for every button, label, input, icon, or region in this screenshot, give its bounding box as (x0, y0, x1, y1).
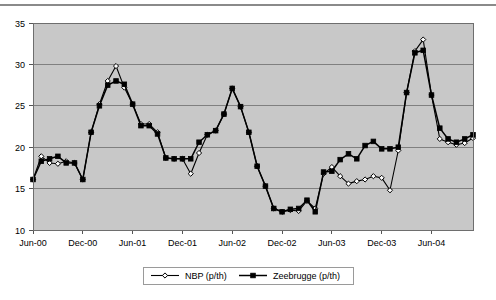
y-tick-label-10: 10 (15, 226, 25, 236)
data-point-zeebrugge-16 (164, 156, 169, 161)
data-point-zeebrugge-5 (72, 161, 77, 166)
chart-legend: NBP (p/th)Zeebrugge (p/th) (143, 267, 353, 284)
data-point-zeebrugge-46 (413, 51, 418, 56)
data-point-zeebrugge-24 (230, 86, 235, 91)
data-point-zeebrugge-32 (296, 206, 301, 211)
data-point-zeebrugge-35 (321, 170, 326, 175)
x-tick-label-Dec-00: Dec-00 (68, 238, 97, 248)
data-point-zeebrugge-18 (180, 156, 185, 161)
x-tick-label-Jun-01: Jun-01 (119, 238, 147, 248)
data-point-zeebrugge-40 (363, 143, 368, 148)
legend-marker-square-filled-icon (251, 273, 256, 278)
x-tick-label-Dec-01: Dec-01 (168, 238, 197, 248)
x-tick-label-Dec-03: Dec-03 (367, 238, 396, 248)
data-point-zeebrugge-50 (446, 137, 451, 142)
data-point-zeebrugge-22 (213, 128, 218, 133)
data-point-zeebrugge-31 (288, 207, 293, 212)
data-point-zeebrugge-39 (354, 156, 359, 161)
y-tick-label-25: 25 (15, 101, 25, 111)
header-divider-rule (0, 4, 496, 6)
data-point-zeebrugge-20 (197, 140, 202, 145)
data-point-zeebrugge-10 (114, 79, 119, 84)
data-point-zeebrugge-29 (271, 206, 276, 211)
data-point-zeebrugge-26 (247, 130, 252, 135)
data-point-zeebrugge-51 (454, 140, 459, 145)
data-point-zeebrugge-15 (155, 132, 160, 137)
x-axis-tick-marks (33, 230, 431, 234)
data-point-zeebrugge-13 (139, 123, 144, 128)
data-point-zeebrugge-7 (89, 130, 94, 135)
data-point-zeebrugge-6 (81, 177, 86, 182)
price-comparison-line-chart: 101520253035 Jun-00Dec-00Jun-01Dec-01Jun… (0, 0, 496, 300)
data-point-zeebrugge-44 (396, 145, 401, 150)
y-tick-label-20: 20 (15, 143, 25, 153)
data-point-zeebrugge-8 (97, 104, 102, 109)
data-point-zeebrugge-37 (338, 157, 343, 162)
data-point-zeebrugge-45 (404, 90, 409, 95)
plot-area-background (33, 23, 473, 230)
data-point-zeebrugge-2 (47, 156, 52, 161)
data-point-zeebrugge-41 (371, 139, 376, 144)
data-point-zeebrugge-27 (255, 164, 260, 169)
x-tick-label-Dec-02: Dec-02 (268, 238, 297, 248)
data-point-zeebrugge-36 (330, 169, 335, 174)
data-point-zeebrugge-23 (222, 112, 227, 117)
data-point-zeebrugge-25 (238, 104, 243, 109)
data-point-zeebrugge-42 (379, 147, 384, 152)
data-point-zeebrugge-3 (56, 154, 61, 159)
y-tick-label-15: 15 (15, 184, 25, 194)
data-point-zeebrugge-34 (313, 209, 318, 214)
data-point-zeebrugge-21 (205, 132, 210, 137)
x-tick-label-Jun-03: Jun-03 (318, 238, 346, 248)
data-point-zeebrugge-17 (172, 156, 177, 161)
x-axis-tick-labels: Jun-00Dec-00Jun-01Dec-01Jun-02Dec-02Jun-… (19, 238, 445, 248)
data-point-zeebrugge-38 (346, 152, 351, 157)
x-tick-label-Jun-04: Jun-04 (418, 238, 446, 248)
data-point-zeebrugge-14 (147, 123, 152, 128)
data-point-zeebrugge-11 (122, 82, 127, 87)
data-point-zeebrugge-30 (280, 209, 285, 214)
y-tick-label-35: 35 (15, 19, 25, 29)
chart-container: 101520253035 Jun-00Dec-00Jun-01Dec-01Jun… (0, 0, 496, 300)
data-point-zeebrugge-9 (105, 83, 110, 88)
y-tick-label-30: 30 (15, 60, 25, 70)
data-point-zeebrugge-52 (462, 137, 467, 142)
data-point-zeebrugge-33 (305, 198, 310, 203)
data-point-zeebrugge-48 (429, 93, 434, 98)
data-point-zeebrugge-47 (421, 48, 426, 53)
x-tick-label-Jun-02: Jun-02 (218, 238, 246, 248)
x-tick-label-Jun-00: Jun-00 (19, 238, 47, 248)
y-axis-tick-labels: 101520253035 (15, 19, 33, 236)
data-point-zeebrugge-28 (263, 184, 268, 189)
data-point-zeebrugge-49 (437, 126, 442, 131)
legend-label-nbp: NBP (p/th) (185, 271, 227, 281)
plot-background (33, 23, 473, 230)
legend-label-zeebrugge: Zeebrugge (p/th) (273, 271, 340, 281)
data-point-zeebrugge-4 (64, 161, 69, 166)
data-point-zeebrugge-1 (39, 159, 44, 164)
data-point-zeebrugge-12 (130, 102, 135, 107)
data-point-zeebrugge-19 (188, 156, 193, 161)
data-point-zeebrugge-43 (388, 147, 393, 152)
